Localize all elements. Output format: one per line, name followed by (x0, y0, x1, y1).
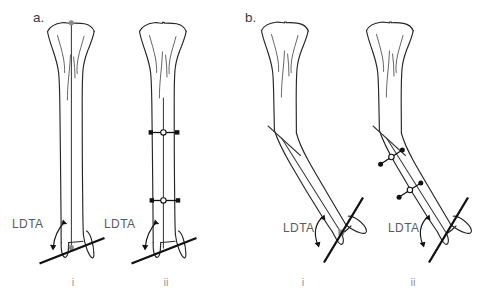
osteotomy-node-upper-upper-bii (400, 147, 405, 152)
figure-background (0, 0, 490, 301)
osteotomy-node-left-upper-aii (149, 130, 153, 134)
osteotomy-node-center-upper-bii (389, 154, 394, 159)
roman-numeral-aii: ii (163, 276, 168, 288)
osteotomy-node-center-lower-aii (161, 198, 166, 203)
roman-numeral-ai: i (72, 276, 75, 288)
panel-b-letter: b. (245, 10, 256, 25)
osteotomy-node-left-lower-aii (150, 198, 154, 202)
roman-numeral-bii: ii (410, 276, 415, 288)
figure-canvas: a. (0, 0, 490, 301)
osteotomy-node-center-lower-bii (407, 187, 412, 192)
proximal-axis-point-marker-ai (69, 20, 74, 25)
osteotomy-node-lower-upper-bii (378, 162, 383, 167)
osteotomy-node-center-upper-aii (161, 130, 166, 135)
ldta-diagram-svg: a. (0, 0, 490, 301)
roman-numeral-bi: i (302, 276, 305, 288)
osteotomy-node-upper-lower-bii (418, 180, 423, 185)
osteotomy-node-right-lower-aii (176, 198, 180, 202)
osteotomy-node-right-upper-aii (175, 130, 179, 134)
ldta-label-bi: LDTA (283, 221, 314, 235)
ldta-label-bii: LDTA (388, 221, 419, 235)
osteotomy-node-lower-lower-bii (397, 195, 402, 200)
panel-a-letter: a. (33, 10, 44, 25)
ldta-label-aii: LDTA (104, 217, 135, 231)
ldta-label-ai: LDTA (12, 217, 43, 231)
